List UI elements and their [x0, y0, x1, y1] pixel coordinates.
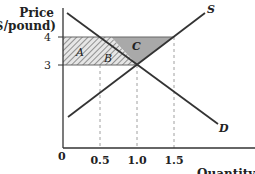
x-axis-title: Quantity of lu: [197, 167, 255, 174]
region-b-label: B: [103, 52, 112, 65]
origin-label: 0: [58, 150, 66, 163]
x-tick-1.0: 1.0: [127, 154, 146, 167]
supply-label: S: [207, 3, 215, 16]
region-c-label: C: [132, 40, 141, 53]
demand-curve: [67, 13, 218, 124]
y-tick-3: 3: [44, 59, 51, 72]
y-axis-title: Price: [19, 6, 54, 20]
region-a-label: A: [75, 46, 84, 59]
demand-label: D: [218, 122, 229, 135]
x-tick-0.5: 0.5: [90, 154, 109, 167]
y-tick-4: 4: [44, 31, 51, 44]
chart-svg: Price ($/pound) 4 3 0 0.5 1.0 1.5 Quanti…: [0, 0, 255, 174]
supply-demand-chart: Price ($/pound) 4 3 0 0.5 1.0 1.5 Quanti…: [0, 0, 255, 174]
x-tick-1.5: 1.5: [164, 154, 183, 167]
